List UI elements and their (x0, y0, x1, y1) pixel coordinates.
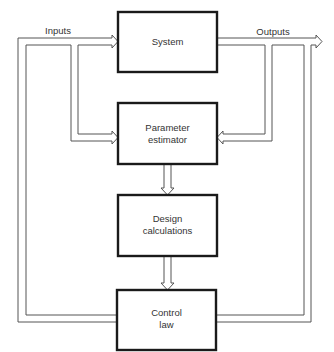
estimator-to-design-arrow (161, 164, 174, 195)
adaptive-control-block-diagram: System Parameter estimator Design calcul… (0, 0, 334, 352)
outputs-line-loop-outer (216, 45, 316, 322)
block-control-law-label-line2: law (159, 319, 173, 330)
outputs-line-branch-estimator (217, 45, 265, 134)
inputs-label: Inputs (45, 25, 71, 36)
block-design-calculations: Design calculations (118, 195, 217, 256)
design-to-control-arrow (161, 256, 174, 290)
block-parameter-estimator: Parameter estimator (118, 103, 217, 164)
block-system: System (118, 12, 217, 72)
inputs-line-outer (18, 38, 117, 322)
block-parameter-estimator-label-line2: estimator (148, 134, 187, 145)
block-system-label: System (152, 36, 184, 47)
inputs-line-inner-right (78, 45, 112, 134)
outputs-connector (216, 35, 322, 322)
block-control-law-label-line1: Control (151, 307, 182, 318)
inputs-line-inner-left (26, 45, 117, 315)
block-control-law: Control law (117, 290, 216, 350)
outputs-line-branch-estimator-inner (216, 45, 304, 315)
block-design-calculations-label-line1: Design (153, 213, 183, 224)
outputs-arrowhead-exit (316, 35, 322, 48)
outputs-label: Outputs (256, 26, 290, 37)
inputs-connector (18, 35, 118, 322)
block-design-calculations-label-line2: calculations (143, 225, 193, 236)
block-parameter-estimator-label-line1: Parameter (145, 122, 189, 133)
